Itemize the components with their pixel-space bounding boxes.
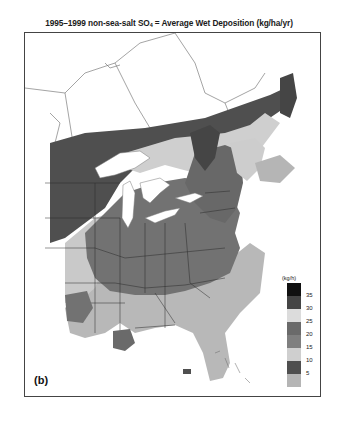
legend-swatch-5-10: [287, 361, 301, 374]
legend-swatch-20-25: [287, 322, 301, 335]
legend-swatch-15-20: [287, 335, 301, 348]
title-text: 1995–1999 non-sea-salt SO: [45, 18, 150, 28]
region-florida-tip: [183, 369, 191, 374]
legend-tick-30: 30: [306, 305, 313, 311]
legend-swatch-30-35: [287, 296, 301, 309]
legend-swatch-10-15: [287, 348, 301, 361]
legend-swatch-lt5: [287, 374, 301, 387]
map-frame: [24, 32, 321, 397]
legend: [287, 283, 301, 387]
region-newfoundland: [280, 73, 297, 118]
legend-tick-35: 35: [306, 292, 313, 298]
legend-tick-25: 25: [306, 318, 313, 324]
legend-swatch-25-30: [287, 309, 301, 322]
region-louisiana: [113, 329, 135, 351]
panel-label: (b): [34, 374, 48, 386]
legend-tick-15: 15: [306, 344, 313, 350]
deposition-map: [25, 33, 321, 397]
legend-tick-20: 20: [306, 331, 313, 337]
legend-tick-5: 5: [306, 370, 309, 376]
legend-swatch-gt35: [287, 283, 301, 296]
legend-unit: (kg/h): [282, 275, 296, 281]
legend-tick-10: 10: [306, 357, 313, 363]
title-suffix: = Average Wet Deposition (kg/ha/yr): [153, 18, 293, 28]
map-title: 1995–1999 non-sea-salt SO4 = Average Wet…: [0, 18, 338, 28]
